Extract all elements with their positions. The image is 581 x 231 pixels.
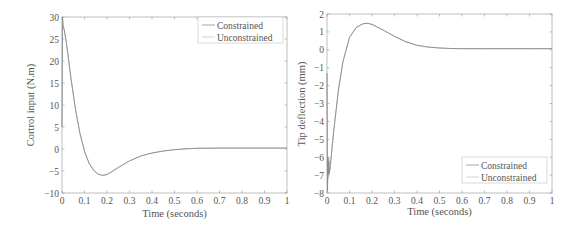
x-tick-label: 1 — [285, 196, 290, 206]
tip-deflection-plot: 00.10.20.30.40.50.60.70.80.91 210−1−2−3−… — [290, 0, 581, 231]
legend-label-unconstrained: Unconstrained — [481, 173, 537, 183]
y-tick-label: 0 — [54, 145, 59, 155]
y-tick-label: −1 — [314, 63, 324, 73]
y-tick-label: −2 — [314, 81, 324, 91]
x-tick-label: 0.1 — [344, 196, 356, 206]
y-tick-label: 15 — [50, 79, 60, 89]
y-tick-label: 2 — [319, 10, 324, 20]
x-tick-label: 0.2 — [366, 196, 378, 206]
x-tick-label: 0.4 — [411, 196, 423, 206]
x-tick-label: 0.5 — [434, 196, 446, 206]
y-tick-label: 25 — [50, 35, 60, 45]
x-axis-label: Time (seconds) — [407, 206, 472, 218]
y-axis-label: Cortrol input (N.m) — [25, 63, 37, 146]
x-tick-label: 0 — [325, 196, 330, 206]
y-tick-label: −10 — [44, 189, 59, 199]
y-tick-label: −4 — [314, 117, 324, 127]
x-tick-label: 0.6 — [191, 196, 203, 206]
x-tick-label: 0.2 — [101, 196, 113, 206]
x-tick-label: 0.8 — [501, 196, 513, 206]
x-tick-label: 0.3 — [124, 196, 136, 206]
tip-deflection-chart: 00.10.20.30.40.50.60.70.80.91 210−1−2−3−… — [290, 0, 581, 231]
y-tick-label: 1 — [319, 27, 324, 37]
y-tick-label: 0 — [319, 45, 324, 55]
y-axis-label: Tip deflection (mm) — [296, 61, 308, 146]
y-tick-label: −3 — [314, 99, 324, 109]
y-tick-label: −5 — [314, 135, 324, 145]
legend-label-constrained: Constrained — [217, 21, 263, 31]
x-tick-label: 0.1 — [79, 196, 91, 206]
x-tick-label: 0.7 — [214, 196, 226, 206]
x-tick-label: 0.3 — [389, 196, 401, 206]
x-tick-label: 0 — [60, 196, 65, 206]
x-tick-label: 1 — [550, 196, 555, 206]
x-tick-label: 0.7 — [479, 196, 491, 206]
y-tick-label: −5 — [49, 167, 59, 177]
y-tick-label: −8 — [314, 189, 324, 199]
y-tick-label: 30 — [50, 13, 60, 23]
x-tick-label: 0.9 — [259, 196, 271, 206]
control-input-chart: 00.10.20.30.40.50.60.70.80.91 3025201510… — [0, 0, 290, 231]
x-tick-label: 0.4 — [146, 196, 158, 206]
x-tick-label: 0.6 — [456, 196, 468, 206]
legend: Constrained Unconstrained — [462, 157, 547, 183]
legend: Constrained Unconstrained — [198, 17, 283, 43]
plot-frame — [62, 17, 287, 193]
y-tick-label: −6 — [314, 153, 324, 163]
y-tick-label: −7 — [314, 171, 324, 181]
x-tick-label: 0.9 — [524, 196, 536, 206]
x-axis-label: Time (seconds) — [142, 208, 207, 220]
y-tick-label: 20 — [50, 57, 60, 67]
y-tick-label: 10 — [50, 101, 60, 111]
x-tick-label: 0.8 — [236, 196, 248, 206]
legend-label-unconstrained: Unconstrained — [217, 33, 273, 43]
legend-label-constrained: Constrained — [481, 161, 527, 171]
y-tick-label: 5 — [54, 123, 59, 133]
control-input-plot: 00.10.20.30.40.50.60.70.80.91 3025201510… — [0, 0, 290, 231]
x-tick-label: 0.5 — [169, 196, 181, 206]
